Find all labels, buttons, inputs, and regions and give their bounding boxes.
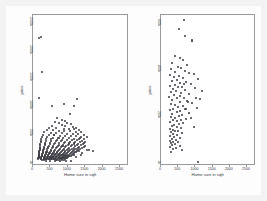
y-tick-label: 2500 [28,17,32,25]
axis-overlay-left: Home size in sqft price 0500100015002000… [32,14,128,165]
y-tick-label: 0 [156,161,160,163]
y-tick-mark [158,25,160,26]
x-axis-title-right: Home size in sqft [191,173,223,177]
y-tick-label: 200 [156,111,160,117]
plot-canvas: Home size in sqft price 0500100015002000… [6,6,261,195]
y-tick-label: 0 [28,161,32,163]
y-tick-label: 600 [156,19,160,25]
x-tick-label: 1000 [63,168,71,172]
x-tick-label: 2500 [115,168,123,172]
y-tick-label: 2000 [28,45,32,53]
x-axis-title-left: Home size in sqft [64,173,96,177]
y-tick-label: 500 [28,129,32,135]
x-tick-label: 500 [46,168,52,172]
y-tick-label: 1500 [28,72,32,80]
x-tick-label: 1000 [190,168,198,172]
x-tick-label: 2000 [225,168,233,172]
figure-container: Home size in sqft price 0500100015002000… [0,0,267,201]
x-tick-label: 1500 [208,168,216,172]
x-tick-label: 500 [174,168,180,172]
y-tick-mark [30,135,32,136]
x-tick-label: 2000 [98,168,106,172]
y-tick-label: 400 [156,65,160,71]
scatter-panel-left: Home size in sqft price 0500100015002000… [6,6,134,195]
x-tick-label: 0 [31,168,33,172]
x-tick-label: 1500 [80,168,88,172]
x-tick-label: 2500 [242,168,250,172]
scatter-panel-right: Home size in sqft price 0200400600050010… [134,6,261,195]
x-tick-label: 0 [159,168,161,172]
y-tick-mark [158,71,160,72]
axis-overlay-right: Home size in sqft price 0200400600050010… [160,14,255,165]
y-tick-label: 1000 [28,100,32,108]
y-axis-title-left: price [20,85,24,94]
y-axis-title-right: price [148,85,152,94]
